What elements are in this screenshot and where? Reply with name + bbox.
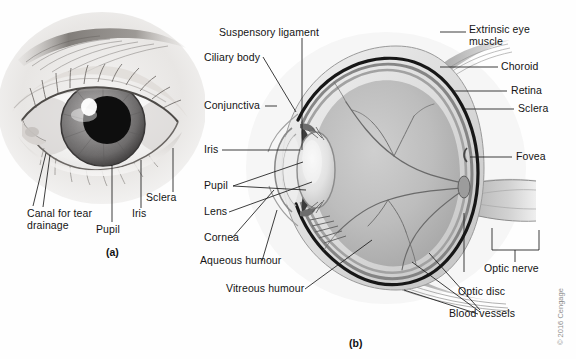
label-canal-for-tear-drainage: Canal for teardrainage — [27, 208, 92, 231]
label-pupil-a: Pupil — [96, 224, 120, 236]
label-retina: Retina — [511, 85, 542, 97]
label-conjunctiva: Conjunctiva — [204, 100, 260, 112]
label-pupil-b: Pupil — [204, 180, 228, 192]
label-fovea: Fovea — [516, 151, 546, 163]
label-ciliary-body: Ciliary body — [204, 52, 260, 64]
external-eye-illustration — [0, 8, 205, 208]
external-eye-svg — [0, 8, 205, 208]
label-cornea: Cornea — [204, 232, 239, 244]
label-lens: Lens — [204, 206, 227, 218]
label-extrinsic-eye-muscle: Extrinsic eyemuscle — [469, 24, 530, 47]
optic-disc — [458, 176, 470, 198]
label-blood-vessels: Blood vessels — [449, 308, 515, 320]
label-iris-a: Iris — [132, 208, 146, 220]
label-choroid: Choroid — [501, 61, 538, 73]
label-sclera-b: Sclera — [518, 103, 548, 115]
label-iris-b: Iris — [204, 144, 218, 156]
eye-anatomy-figure: Canal for teardrainage Pupil Iris Sclera… — [0, 0, 576, 359]
label-vitreous-humour: Vitreous humour — [226, 283, 304, 295]
label-optic-disc: Optic disc — [458, 286, 505, 298]
panel-b-caption: (b) — [349, 337, 362, 349]
label-suspensory-ligament: Suspensory ligament — [219, 27, 319, 39]
label-optic-nerve: Optic nerve — [484, 263, 539, 275]
label-aqueous-humour: Aqueous humour — [200, 255, 281, 267]
label-sclera-a: Sclera — [146, 192, 176, 204]
panel-a-caption: (a) — [106, 246, 119, 258]
copyright-notice: © 2016 Cengage — [556, 288, 565, 345]
lens-highlight — [302, 140, 322, 184]
